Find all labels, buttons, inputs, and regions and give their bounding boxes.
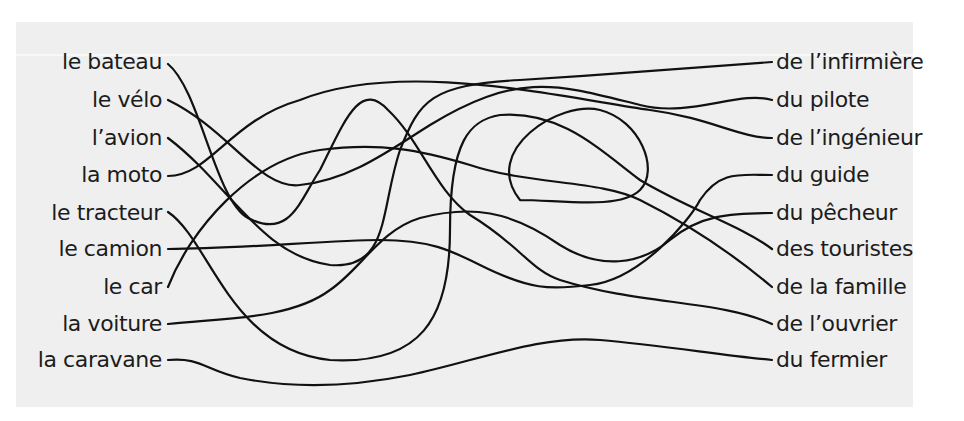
left-label-le-tracteur: le tracteur bbox=[51, 200, 162, 226]
wire-l-avion bbox=[168, 62, 772, 265]
wire-le-velo bbox=[168, 87, 772, 185]
wire-la-moto bbox=[168, 81, 772, 176]
wire-le-tracteur bbox=[168, 115, 772, 361]
right-label-de-l-infirmiere: de l’infirmière bbox=[776, 49, 923, 75]
right-label-de-l-ingenieur: de l’ingénieur bbox=[776, 125, 922, 151]
right-label-du-guide: du guide bbox=[776, 162, 869, 188]
left-column: le bateau le vélo l’avion la moto le tra… bbox=[0, 0, 162, 421]
wire-le-car bbox=[168, 147, 772, 287]
wire-la-caravane bbox=[168, 339, 772, 385]
left-label-la-moto: la moto bbox=[81, 162, 162, 188]
left-label-le-bateau: le bateau bbox=[62, 49, 162, 75]
left-label-le-velo: le vélo bbox=[92, 87, 162, 113]
left-label-le-camion: le camion bbox=[58, 236, 162, 262]
right-label-de-l-ouvrier: de l’ouvrier bbox=[776, 311, 897, 337]
wire-loop bbox=[509, 109, 648, 203]
right-label-de-la-famille: de la famille bbox=[776, 274, 906, 300]
right-label-du-pilote: du pilote bbox=[776, 87, 869, 113]
right-label-des-touristes: des touristes bbox=[776, 236, 913, 262]
right-label-du-fermier: du fermier bbox=[776, 347, 887, 373]
left-label-le-car: le car bbox=[103, 274, 162, 300]
left-label-la-voiture: la voiture bbox=[62, 311, 162, 337]
left-label-l-avion: l’avion bbox=[92, 125, 162, 151]
right-column: de l’infirmière du pilote de l’ingénieur… bbox=[776, 0, 956, 421]
right-label-du-pecheur: du pêcheur bbox=[776, 200, 897, 226]
left-label-la-caravane: la caravane bbox=[38, 347, 162, 373]
